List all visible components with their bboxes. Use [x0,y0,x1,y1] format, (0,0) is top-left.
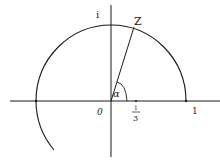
point-minus-one [35,100,37,102]
point-third [135,100,137,102]
diagram-canvas: i Z α 0 1 1 3 [0,0,220,160]
label-third-denominator: 3 [133,114,138,123]
label-origin: 0 [97,107,103,117]
label-z: Z [134,15,142,28]
label-third-numerator: 1 [134,104,138,111]
point-one [185,100,187,102]
label-alpha: α [113,88,120,99]
label-i: i [96,9,99,20]
label-one: 1 [192,106,198,116]
